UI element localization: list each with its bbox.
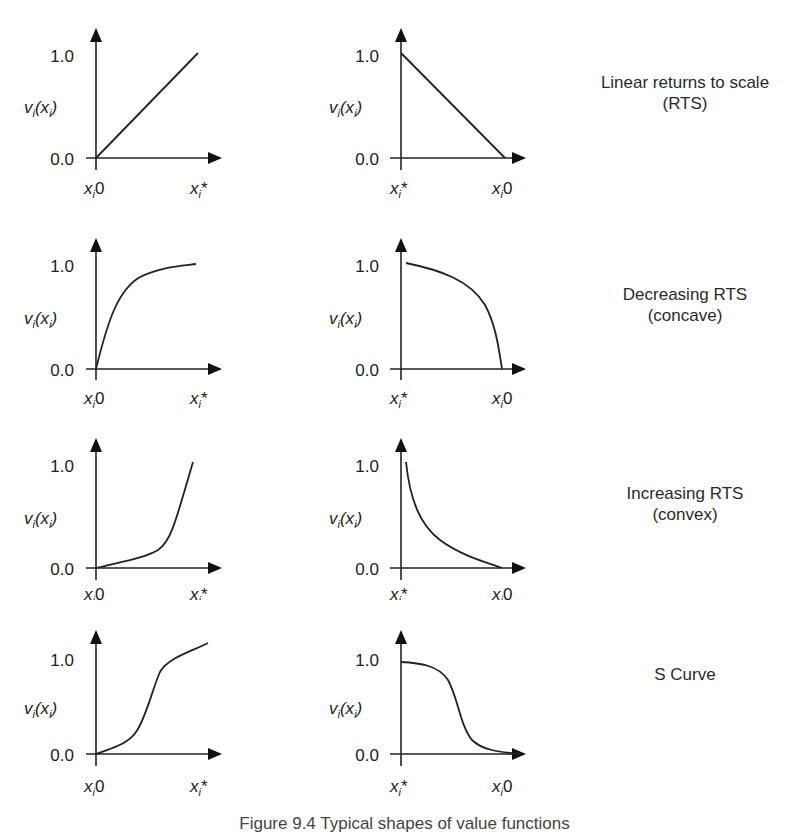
svg-text:xi0: xi0: [491, 585, 512, 600]
row-description-s-curve: S Curve: [580, 664, 790, 685]
chart-concave-increasing: 1.0 0.0 vi(xi) xi0 xi*: [0, 210, 280, 410]
y-axis-arrow-icon: [395, 238, 407, 252]
svg-text:vi(xi): vi(xi): [24, 509, 57, 530]
svg-text:vi(xi): vi(xi): [329, 509, 362, 530]
svg-text:xi*: xi*: [389, 179, 408, 200]
value-curve: [96, 643, 208, 754]
svg-text:xi0: xi0: [83, 777, 104, 798]
x-label-right: xi*: [189, 179, 208, 200]
svg-text:xi0: xi0: [491, 777, 512, 798]
svg-text:xi0: xi0: [83, 389, 104, 410]
y-axis-arrow-icon: [90, 28, 102, 42]
y-tick-top: 1.0: [50, 47, 74, 66]
x-label-left: xi0: [83, 179, 104, 200]
x-axis-arrow-icon: [208, 152, 222, 164]
svg-text:xi*: xi*: [189, 389, 208, 410]
chart-s-curve-increasing: 1.0 0.0 vi(xi) xi0 xi*: [0, 600, 280, 800]
y-axis-arrow-icon: [395, 438, 407, 452]
svg-text:0.0: 0.0: [355, 560, 379, 579]
svg-text:xi*: xi*: [389, 585, 408, 600]
svg-text:vi(xi): vi(xi): [329, 699, 362, 720]
svg-text:0.0: 0.0: [355, 746, 379, 765]
svg-text:0.0: 0.0: [50, 361, 74, 380]
y-axis-arrow-icon: [90, 238, 102, 252]
chart-concave-decreasing: 1.0 0.0 vi(xi) xi* xi0: [280, 210, 560, 410]
row-description-concave: Decreasing RTS (concave): [580, 284, 790, 326]
x-axis-arrow-icon: [512, 152, 526, 164]
value-curve: [406, 263, 502, 369]
y-axis-arrow-icon: [90, 438, 102, 452]
svg-text:1.0: 1.0: [50, 457, 74, 476]
svg-text:0.0: 0.0: [355, 150, 379, 169]
value-curve: [96, 264, 196, 369]
svg-text:xi0: xi0: [83, 585, 104, 600]
figure-caption: Figure 9.4 Typical shapes of value funct…: [0, 814, 809, 833]
value-curve: [406, 462, 502, 568]
svg-text:vi(xi): vi(xi): [329, 98, 362, 119]
svg-text:vi(xi): vi(xi): [329, 309, 362, 330]
value-curve: [96, 53, 198, 158]
value-curve: [401, 662, 520, 754]
svg-text:0.0: 0.0: [355, 361, 379, 380]
svg-text:1.0: 1.0: [50, 257, 74, 276]
chart-convex-decreasing: 1.0 0.0 vi(xi) xi* xi0: [280, 410, 560, 600]
svg-text:vi(xi): vi(xi): [24, 699, 57, 720]
svg-text:xi*: xi*: [189, 585, 208, 600]
svg-text:xi*: xi*: [389, 389, 408, 410]
row-description-convex: Increasing RTS (convex): [580, 483, 790, 525]
svg-text:1.0: 1.0: [355, 651, 379, 670]
y-axis-arrow-icon: [90, 630, 102, 644]
row-description-linear: Linear returns to scale (RTS): [580, 72, 790, 114]
value-curve: [96, 462, 193, 568]
svg-text:xi*: xi*: [189, 777, 208, 798]
svg-text:xi*: xi*: [389, 777, 408, 798]
svg-text:1.0: 1.0: [355, 257, 379, 276]
y-axis-arrow-icon: [395, 28, 407, 42]
x-axis-arrow-icon: [512, 363, 526, 375]
y-axis-arrow-icon: [395, 630, 407, 644]
svg-text:0.0: 0.0: [50, 746, 74, 765]
value-curve: [401, 53, 505, 158]
svg-text:1.0: 1.0: [50, 651, 74, 670]
chart-linear-increasing: 1.0 0.0 vi(xi) xi0 xi*: [0, 0, 280, 210]
x-axis-arrow-icon: [208, 363, 222, 375]
svg-text:1.0: 1.0: [355, 457, 379, 476]
chart-s-curve-decreasing: 1.0 0.0 vi(xi) xi* xi0: [280, 600, 560, 800]
svg-text:0.0: 0.0: [50, 560, 74, 579]
chart-convex-increasing: 1.0 0.0 vi(xi) xi0 xi*: [0, 410, 280, 600]
svg-text:xi0: xi0: [491, 389, 512, 410]
y-axis-label: vi(xi): [24, 98, 57, 119]
svg-text:1.0: 1.0: [355, 47, 379, 66]
x-axis-arrow-icon: [208, 748, 222, 760]
chart-linear-decreasing: 1.0 0.0 vi(xi) xi* xi0: [280, 0, 560, 210]
svg-text:vi(xi): vi(xi): [24, 309, 57, 330]
x-axis-arrow-icon: [208, 562, 222, 574]
y-tick-bottom: 0.0: [50, 150, 74, 169]
svg-text:xi0: xi0: [491, 179, 512, 200]
x-axis-arrow-icon: [512, 562, 526, 574]
